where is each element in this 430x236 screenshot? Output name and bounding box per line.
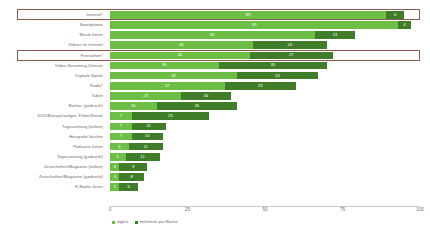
category-label: Smartphone	[0, 20, 106, 30]
bar-segment-mehrmals-pro-woche: 23	[225, 82, 296, 90]
chart-row: Videos im Internet4624	[0, 40, 430, 50]
bar-segment-taeglich: 15	[110, 102, 157, 110]
bar-segment-mehrmals-pro-woche: 10	[132, 133, 163, 141]
bar-segment-taeglich: 89	[110, 11, 386, 19]
bar-value-label: 27	[289, 53, 294, 57]
bar-value-label: 3	[113, 185, 115, 189]
bar-value-label: 6	[127, 185, 129, 189]
stacked-bar: 2316	[110, 92, 420, 100]
bar-value-label: 37	[165, 84, 170, 88]
category-label: E-Books lesen	[0, 182, 106, 192]
bar-segment-mehrmals-pro-woche: 11	[126, 153, 160, 161]
stacked-bar: 896	[110, 11, 420, 19]
bar-segment-taeglich: 35	[110, 62, 219, 70]
legend-item[interactable]: mehrmals pro Woche	[135, 220, 178, 224]
stacked-bar: 3723	[110, 82, 420, 90]
chart-row: Bücher (gedruckt)1526	[0, 101, 430, 111]
stacked-bar: 1526	[110, 102, 420, 110]
legend-item[interactable]: täglich	[112, 220, 128, 224]
bar-value-label: 45	[177, 53, 182, 57]
legend-label: täglich	[117, 220, 129, 224]
bar-value-label: 35	[270, 63, 275, 67]
bar-value-label: 10	[145, 134, 150, 138]
stacked-bar: 4527	[110, 52, 420, 60]
x-tick-label: 100	[416, 208, 424, 213]
bar-value-label: 6	[118, 145, 120, 149]
bar-segment-mehrmals-pro-woche: 26	[157, 102, 238, 110]
stacked-bar: 710	[110, 133, 420, 141]
category-label: Zeitschriften/Magazine (online)	[0, 162, 106, 172]
bar-value-label: 23	[258, 84, 263, 88]
category-label: Tablet	[0, 91, 106, 101]
bar-value-label: 9	[132, 165, 134, 169]
bar-value-label: 26	[275, 74, 280, 78]
bar-value-label: 15	[131, 104, 136, 108]
bar-value-label: 66	[210, 33, 215, 37]
bar-value-label: 23	[143, 94, 148, 98]
bar-segment-taeglich: 3	[110, 163, 119, 171]
stacked-bar: 611	[110, 143, 420, 151]
stacked-bar: 3535	[110, 62, 420, 70]
stacked-bar: 934	[110, 21, 420, 29]
category-label: Tageszeitung (online)	[0, 122, 106, 132]
stacked-bar: 711	[110, 123, 420, 131]
bar-segment-mehrmals-pro-woche: 11	[129, 143, 163, 151]
legend-swatch-icon	[112, 221, 115, 224]
category-label: Podcasts hören	[0, 142, 106, 152]
bar-segment-mehrmals-pro-woche: 11	[132, 123, 166, 131]
category-label: Fernsehen*	[0, 51, 106, 61]
chart-row: Podcasts hören611	[0, 142, 430, 152]
bar-segment-taeglich: 3	[110, 173, 119, 181]
category-label: Musik hören	[0, 30, 106, 40]
bar-value-label: 11	[147, 124, 151, 128]
bar-segment-taeglich: 46	[110, 41, 253, 49]
category-label: Tageszeitung (gedruckt)	[0, 152, 106, 162]
stacked-bar: 4624	[110, 41, 420, 49]
stacked-bar: 39	[110, 163, 420, 171]
bar-value-label: 11	[143, 145, 147, 149]
bar-segment-mehrmals-pro-woche: 26	[237, 72, 318, 80]
chart-row: Hörspiele/-bücher710	[0, 132, 430, 142]
legend-label: mehrmals pro Woche	[140, 220, 178, 224]
bar-segment-taeglich: 66	[110, 31, 315, 39]
chart-row: Digitale Spiele4126	[0, 71, 430, 81]
bar-value-label: 26	[194, 104, 199, 108]
category-label: Radio*	[0, 81, 106, 91]
category-label: Video-Streaming-Dienste	[0, 61, 106, 71]
category-label: Hörspiele/-bücher	[0, 132, 106, 142]
chart-row: Zeitschriften/Magazine (gedruckt)38	[0, 172, 430, 182]
chart-row: Internet*896	[0, 10, 430, 20]
stacked-bar: 36	[110, 183, 420, 191]
bar-segment-mehrmals-pro-woche: 24	[253, 41, 327, 49]
bar-segment-taeglich: 23	[110, 92, 181, 100]
chart-row: E-Books lesen36	[0, 182, 430, 192]
chart-row: Tageszeitung (gedruckt)511	[0, 152, 430, 162]
bar-segment-mehrmals-pro-woche: 6	[386, 11, 405, 19]
bar-segment-taeglich: 45	[110, 52, 250, 60]
bar-segment-mehrmals-pro-woche: 6	[119, 183, 138, 191]
bar-value-label: 25	[168, 114, 173, 118]
stacked-bar: 6613	[110, 31, 420, 39]
bar-value-label: 24	[287, 43, 292, 47]
stacked-bar: 4126	[110, 72, 420, 80]
bar-segment-mehrmals-pro-woche: 25	[132, 112, 210, 120]
chart-container: Internet*896Smartphone934Musik hören6613…	[0, 0, 430, 236]
bar-segment-taeglich: 6	[110, 143, 129, 151]
x-tick-label: 0	[109, 208, 112, 213]
plot-area: Internet*896Smartphone934Musik hören6613…	[0, 10, 430, 206]
chart-row: Radio*3723	[0, 81, 430, 91]
bar-value-label: 93	[252, 23, 257, 27]
bar-value-label: 7	[120, 124, 122, 128]
stacked-bar: 725	[110, 112, 420, 120]
bar-segment-taeglich: 5	[110, 153, 126, 161]
bar-value-label: 6	[394, 13, 396, 17]
bar-value-label: 35	[162, 63, 167, 67]
bar-segment-mehrmals-pro-woche: 16	[181, 92, 231, 100]
category-label: Digitale Spiele	[0, 71, 106, 81]
bar-value-label: 8	[131, 175, 133, 179]
category-label: Zeitschriften/Magazine (gedruckt)	[0, 172, 106, 182]
chart-row: Musik hören6613	[0, 30, 430, 40]
bar-value-label: 7	[120, 114, 122, 118]
bar-value-label: 4	[403, 23, 405, 27]
bar-segment-mehrmals-pro-woche: 13	[315, 31, 355, 39]
